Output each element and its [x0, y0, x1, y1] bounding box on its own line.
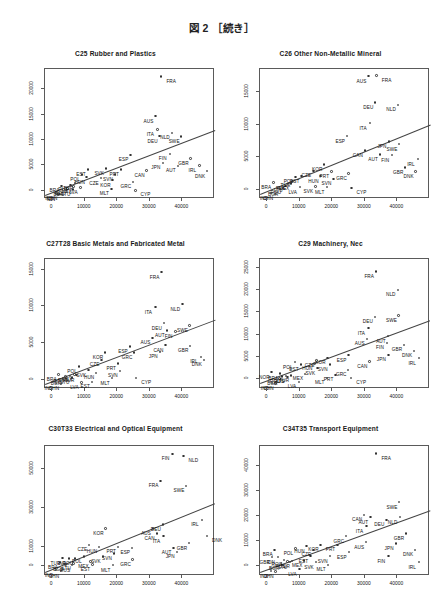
data-point	[131, 558, 133, 560]
data-point	[272, 181, 274, 183]
data-point	[87, 369, 89, 371]
point-label: FRA	[150, 274, 160, 279]
point-label: HUN	[308, 178, 318, 183]
point-label: AUT	[155, 333, 165, 338]
y-axis-tick-label: 40000	[244, 458, 249, 472]
point-label: AUS	[140, 340, 150, 345]
panel-title: C34T35 Transport Equipment	[223, 425, 438, 432]
y-axis-tick	[256, 311, 259, 312]
data-point	[104, 351, 106, 353]
point-label: MEX	[292, 563, 302, 568]
data-point	[350, 377, 352, 379]
y-axis-tick	[41, 269, 44, 270]
data-point	[283, 559, 285, 561]
point-label: GRC	[120, 562, 131, 567]
data-point	[166, 329, 168, 331]
data-point	[181, 303, 183, 305]
point-label: PRT	[326, 547, 336, 552]
point-label: GBR	[178, 348, 188, 353]
y-axis-tick-label: 25000	[244, 260, 249, 274]
point-label: MLT	[101, 567, 110, 572]
data-point	[270, 570, 272, 572]
point-label: JPN	[377, 144, 386, 149]
data-point	[201, 519, 203, 521]
point-label: DNK	[404, 174, 414, 179]
point-label: MLT	[315, 189, 324, 194]
data-point	[274, 570, 276, 572]
y-axis-tick	[41, 164, 44, 165]
y-axis-tick-label: 5000	[244, 151, 249, 162]
data-point	[294, 547, 296, 549]
point-label: ITA	[147, 131, 154, 136]
plot-area: FRANLDITADEUSWEAUTFINAUSCANGBRESPJPNGRCI…	[44, 258, 214, 388]
y-axis-tick-label: 30000	[244, 483, 249, 497]
x-axis-tick-label: 10000	[292, 394, 306, 399]
data-point	[154, 306, 156, 308]
y-axis-tick	[41, 468, 44, 469]
point-label: JPN	[377, 357, 386, 362]
x-axis-tick-label: 0	[265, 581, 268, 586]
data-point	[327, 564, 329, 566]
panel-title: C26 Other Non-Metallic Mineral	[223, 50, 438, 57]
point-label: HUN	[87, 549, 97, 554]
point-label: RUS	[275, 564, 285, 569]
data-point	[156, 532, 158, 534]
point-label: HUN	[84, 375, 94, 380]
point-label: RUS	[60, 567, 70, 572]
x-axis-tick-label: 40000	[390, 581, 404, 586]
data-point	[332, 178, 334, 180]
scatter-panel-5: C30T33 Electrical and Optical EquipmentF…	[8, 425, 223, 603]
y-axis-tick-label: 15000	[244, 305, 249, 319]
point-label: AUT	[166, 168, 176, 173]
y-axis-tick-label: 15000	[29, 107, 34, 121]
x-axis-tick	[299, 388, 300, 391]
data-point	[417, 158, 419, 160]
point-label: CZE	[77, 547, 87, 552]
point-label: CAN	[134, 173, 144, 178]
point-label: IRL	[191, 522, 199, 527]
data-point	[172, 547, 174, 549]
x-axis-tick-label: 20000	[324, 204, 338, 209]
data-point	[131, 547, 133, 549]
data-point	[334, 374, 336, 376]
plot-area: FRANLDDEUSWEITAAUTAUSFINGBRDNKJPNIRLESPC…	[259, 258, 429, 388]
data-point	[367, 75, 369, 77]
y-axis-tick	[256, 378, 259, 379]
x-axis-tick	[84, 388, 85, 391]
data-point	[57, 373, 59, 375]
data-point	[270, 371, 272, 373]
point-label: NLD	[388, 519, 398, 524]
point-label: PRT	[106, 365, 116, 370]
data-point	[367, 327, 369, 329]
x-axis-tick	[364, 575, 365, 578]
data-point	[74, 557, 76, 559]
x-axis-tick	[116, 388, 117, 391]
data-point	[294, 361, 296, 363]
data-point	[413, 350, 415, 352]
data-point	[68, 557, 70, 559]
point-label: GRC	[122, 354, 133, 359]
data-point	[387, 354, 389, 356]
point-label: DNK	[403, 552, 413, 557]
point-label: SVN	[318, 367, 328, 372]
x-axis-tick-label: 30000	[142, 394, 156, 399]
point-label: HUN	[74, 179, 84, 184]
data-point	[158, 135, 160, 137]
y-axis-tick	[256, 289, 259, 290]
point-label: IRL	[408, 360, 416, 365]
x-axis-tick	[51, 575, 52, 578]
data-point	[111, 377, 113, 379]
point-label: LVA	[288, 189, 296, 194]
point-label: SVK	[305, 370, 315, 375]
y-axis-tick	[41, 379, 44, 380]
scatter-panel-2: C26 Other Non-Metallic MineralAUSFRADEUN…	[223, 50, 438, 225]
point-label: JPN	[166, 554, 175, 559]
data-point	[91, 563, 93, 565]
x-axis-tick-label: 20000	[324, 581, 338, 586]
data-point	[169, 153, 171, 155]
y-axis-tick-label: 10000	[29, 539, 34, 553]
data-point	[298, 568, 300, 570]
data-point	[120, 168, 122, 170]
x-axis-tick-label: 40000	[390, 394, 404, 399]
data-point	[162, 523, 164, 525]
